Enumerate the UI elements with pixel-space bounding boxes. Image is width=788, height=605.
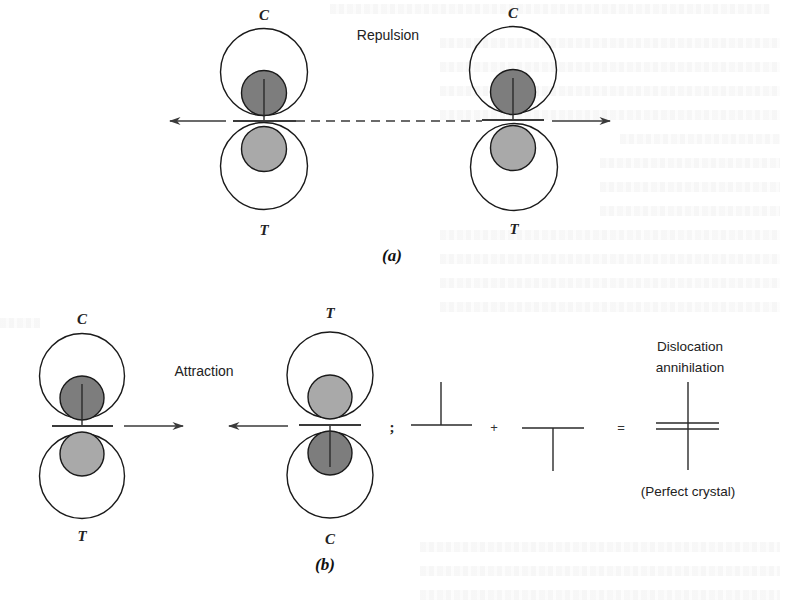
- plus-sign: +: [490, 420, 498, 435]
- dislocation-b-left: C T: [40, 311, 125, 544]
- tension-region-dot: [491, 126, 536, 171]
- compression-label: C: [508, 5, 519, 21]
- dislocation-b-right: T C: [287, 305, 373, 547]
- dislocation-a-left: C T: [221, 7, 308, 238]
- dislocation-a-right: C T: [470, 5, 558, 237]
- perfect-crystal-caption: (Perfect crystal): [641, 484, 736, 499]
- tension-label: T: [325, 305, 335, 321]
- negative-edge-dislocation-symbol: [522, 428, 584, 471]
- positive-edge-dislocation-symbol: [411, 382, 472, 425]
- panel-a-label: (a): [382, 246, 402, 265]
- equals-sign: =: [617, 420, 625, 435]
- compression-label: C: [259, 7, 270, 23]
- attraction-label: Attraction: [174, 363, 233, 379]
- tension-region-dot: [242, 127, 287, 172]
- compression-label: C: [325, 531, 336, 547]
- annihilation-title-line1: Dislocation: [657, 339, 723, 354]
- separator-semicolon: ;: [390, 419, 395, 435]
- annihilated-dislocation-symbol: [656, 382, 719, 470]
- tension-label: T: [259, 222, 269, 238]
- annihilation-title-line2: annihilation: [656, 360, 724, 375]
- repulsion-label: Repulsion: [357, 27, 419, 43]
- tension-region-dot: [60, 432, 104, 476]
- panel-b-label: (b): [315, 555, 335, 574]
- panel-b: C T Attraction T C ;: [40, 305, 736, 574]
- annihilation-equation: [411, 382, 719, 471]
- compression-label: C: [77, 311, 88, 327]
- panel-a: C T C T Repulsion (a): [170, 5, 610, 265]
- tension-label: T: [77, 528, 87, 544]
- tension-label: T: [509, 221, 519, 237]
- tension-region-dot: [308, 375, 352, 419]
- dislocation-interaction-figure: C T C T Repulsion (a) C T: [0, 0, 788, 605]
